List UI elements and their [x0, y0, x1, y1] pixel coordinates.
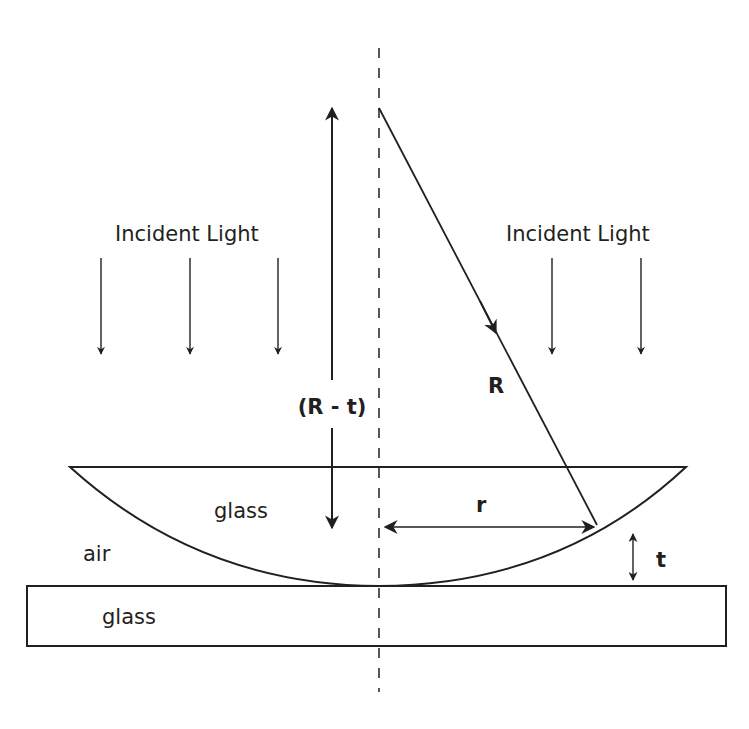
newtons-rings-diagram: Incident Light Incident Light (R - t) R … [0, 0, 749, 729]
incident-light-left-group: Incident Light [101, 222, 278, 354]
air-gap-label: air [83, 542, 111, 566]
incident-light-right-group: Incident Light [506, 222, 650, 354]
radius-line-group: R [379, 108, 597, 525]
incident-light-left-label: Incident Light [115, 222, 259, 246]
ring-radius-label: r [476, 493, 487, 517]
radius-label: R [488, 374, 504, 398]
thickness-label: t [656, 548, 666, 572]
r-minus-t-dimension: (R - t) [298, 108, 367, 528]
lens-glass-label: glass [214, 499, 268, 523]
r-minus-t-label: (R - t) [298, 395, 367, 419]
radius-direction-arrow-icon [480, 301, 496, 333]
plate-glass-label: glass [102, 605, 156, 629]
incident-light-right-label: Incident Light [506, 222, 650, 246]
ring-radius-dimension: r [385, 493, 594, 527]
thickness-dimension: t [633, 534, 666, 580]
